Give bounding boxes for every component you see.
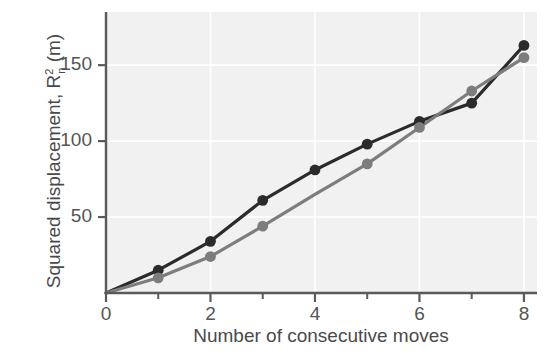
data-point-gray xyxy=(205,251,216,262)
chart-figure: Squared displacement, R2n (m) Number of … xyxy=(0,0,557,359)
y-axis-label-text: Squared displacement, R xyxy=(43,75,64,288)
data-point-gray xyxy=(414,122,425,133)
data-point-dark xyxy=(519,40,530,51)
data-point-gray xyxy=(153,272,164,283)
data-point-dark xyxy=(466,98,477,109)
data-point-dark xyxy=(310,165,321,176)
plot-background xyxy=(106,12,537,293)
data-point-dark xyxy=(257,195,268,206)
y-tick-label: 100 xyxy=(30,130,92,149)
data-point-dark xyxy=(205,236,216,247)
data-point-gray xyxy=(519,52,530,63)
x-axis-label: Number of consecutive moves xyxy=(106,325,536,347)
x-tick-label: 2 xyxy=(195,304,225,323)
x-tick-label: 8 xyxy=(509,304,539,323)
data-point-dark xyxy=(362,139,373,150)
x-tick-label: 6 xyxy=(404,304,434,323)
y-tick-label: 150 xyxy=(30,54,92,73)
data-point-gray xyxy=(362,158,373,169)
x-tick-label: 0 xyxy=(91,304,121,323)
x-tick-label: 4 xyxy=(300,304,330,323)
y-tick-label: 50 xyxy=(30,206,92,225)
data-point-gray xyxy=(257,221,268,232)
data-point-gray xyxy=(466,86,477,97)
